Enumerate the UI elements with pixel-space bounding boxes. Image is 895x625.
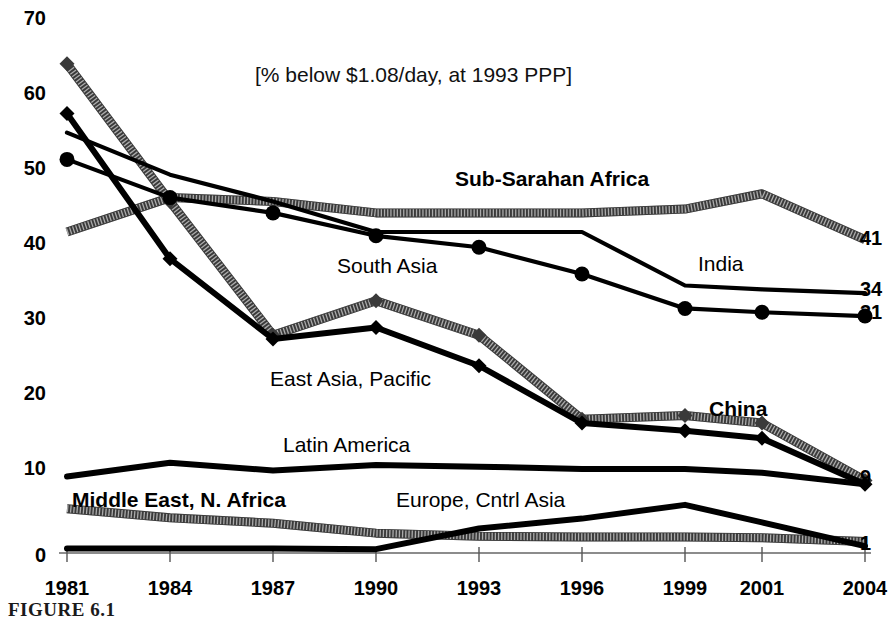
figure-caption: FIGURE 6.1 — [8, 600, 115, 619]
chart-title: [% below $1.08/day, at 1993 PPP] — [255, 64, 572, 85]
series-middle-east-n-africa — [67, 509, 865, 542]
series-europe-cntrl-asia — [67, 505, 865, 549]
series-label-latin-america: Latin America — [283, 434, 410, 455]
x-tick-1993: 1993 — [434, 578, 524, 598]
series-label-china: China — [709, 398, 767, 419]
y-tick-20: 20 — [0, 383, 46, 403]
y-tick-60: 60 — [0, 83, 46, 103]
series-label-sub-saharan-africa: Sub-Sarahan Africa — [455, 168, 649, 189]
end-label-china: 9 — [860, 467, 871, 487]
end-label-sub-saharan-africa: 41 — [860, 228, 882, 248]
x-tick-1987: 1987 — [228, 578, 318, 598]
series-latin-america — [67, 463, 865, 484]
figure-container: 70 60 50 40 30 20 10 0 1981 1984 1987 19… — [0, 0, 895, 625]
y-tick-50: 50 — [0, 158, 46, 178]
series-label-east-asia-pacific: East Asia, Pacific — [270, 368, 431, 389]
x-tick-2001: 2001 — [717, 578, 807, 598]
x-tick-1990: 1990 — [331, 578, 421, 598]
end-label-south-asia: 34 — [860, 279, 882, 299]
x-tick-2004: 2004 — [820, 578, 895, 598]
end-label-india: 31 — [860, 302, 882, 322]
series-china — [60, 106, 873, 492]
series-east-asia-pacific — [60, 56, 873, 488]
y-tick-10: 10 — [0, 458, 46, 478]
y-tick-40: 40 — [0, 233, 46, 253]
y-tick-0: 0 — [0, 545, 46, 565]
y-tick-70: 70 — [0, 8, 46, 28]
series-label-india: India — [698, 253, 744, 274]
y-tick-30: 30 — [0, 308, 46, 328]
x-tick-1984: 1984 — [125, 578, 215, 598]
series-label-europe-cntrl-asia: Europe, Cntrl Asia — [396, 489, 565, 510]
x-tick-1996: 1996 — [537, 578, 627, 598]
chart-canvas — [0, 0, 895, 625]
series-label-middle-east-n-africa: Middle East, N. Africa — [72, 489, 286, 510]
end-label-middle-east-n-africa: 1 — [860, 533, 871, 553]
x-tick-1981: 1981 — [22, 578, 112, 598]
series-label-south-asia: South Asia — [337, 255, 437, 276]
